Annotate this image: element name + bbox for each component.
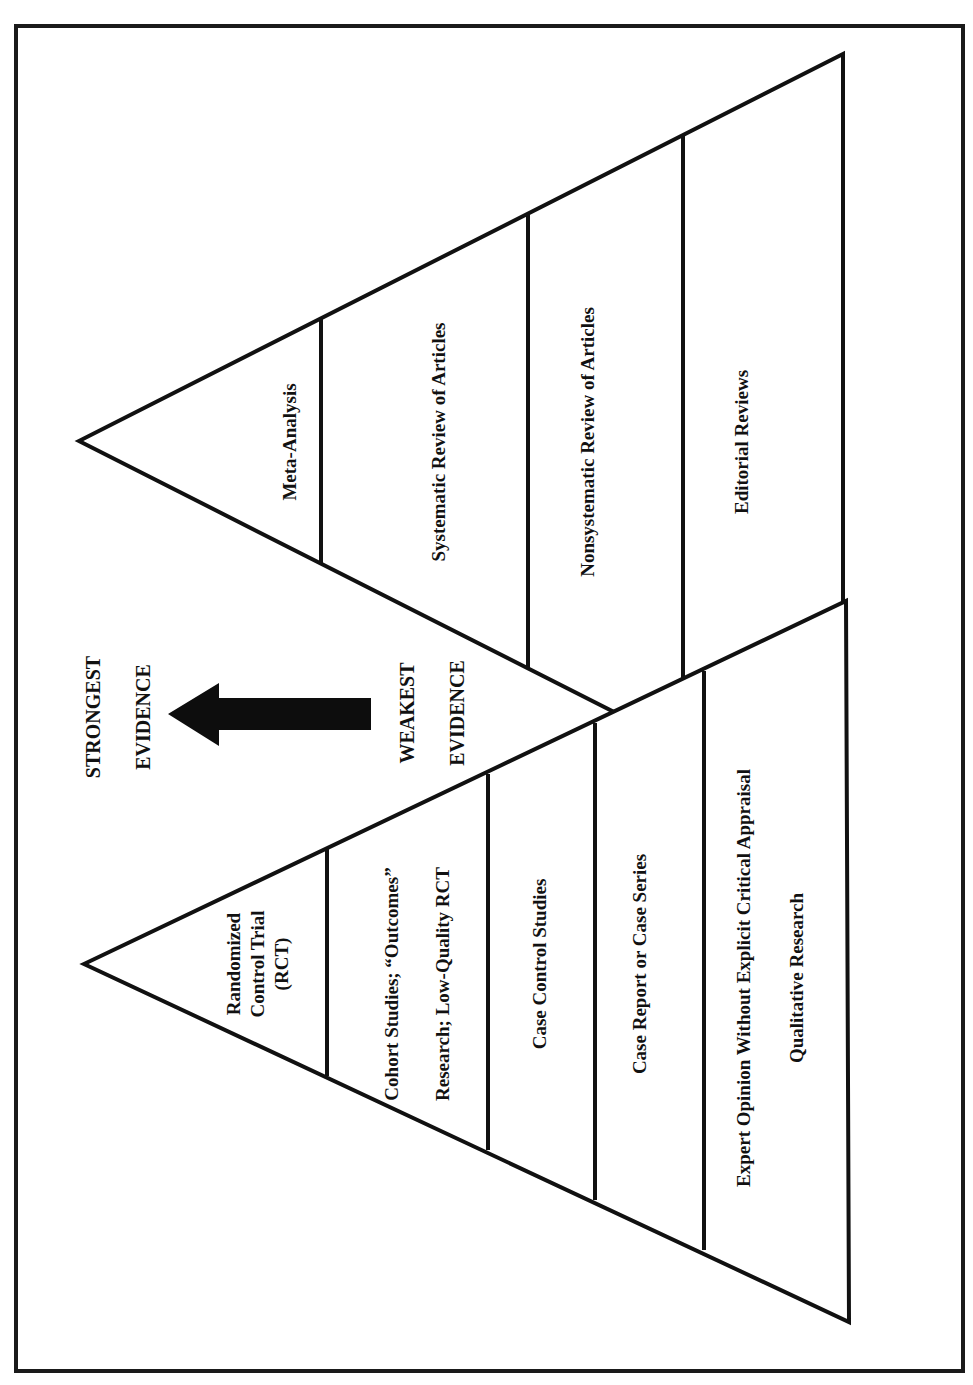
study-tier-3-label: Case Control Studies (529, 879, 550, 1050)
strongest-label-line-2: EVIDENCE (132, 664, 154, 770)
arrow-left-icon (168, 683, 371, 746)
study-tier-1-line-2: Control Trial (247, 910, 268, 1017)
study-tier-2-line-2: Research; Low-Quality RCT (432, 867, 453, 1101)
study-tier-1-line-1: Randomized (223, 912, 244, 1015)
review-tier-3-label: Nonsystematic Review of Articles (577, 307, 598, 577)
study-tier-4-label: Case Report or Case Series (629, 854, 650, 1074)
evidence-hierarchy-diagram: Meta-Analysis Systematic Review of Artic… (0, 0, 973, 1385)
strongest-label-line-1: STRONGEST (82, 655, 104, 778)
weakest-label-line-2: EVIDENCE (446, 660, 468, 766)
review-tier-4-label: Editorial Reviews (731, 370, 752, 514)
study-tier-5-line-2: Qualitative Research (786, 893, 807, 1064)
evidence-strength-legend: STRONGEST EVIDENCE WEAKEST EVIDENCE (82, 655, 468, 778)
study-tier-2-line-1: Cohort Studies; “Outcomes” (381, 867, 402, 1100)
review-tier-2-label: Systematic Review of Articles (428, 322, 449, 561)
review-tier-1-label: Meta-Analysis (279, 383, 300, 500)
weakest-label-line-1: WEAKEST (396, 662, 418, 764)
study-tier-5-line-1: Expert Opinion Without Explicit Critical… (733, 769, 754, 1187)
study-tier-1-line-3: (RCT) (271, 938, 293, 991)
